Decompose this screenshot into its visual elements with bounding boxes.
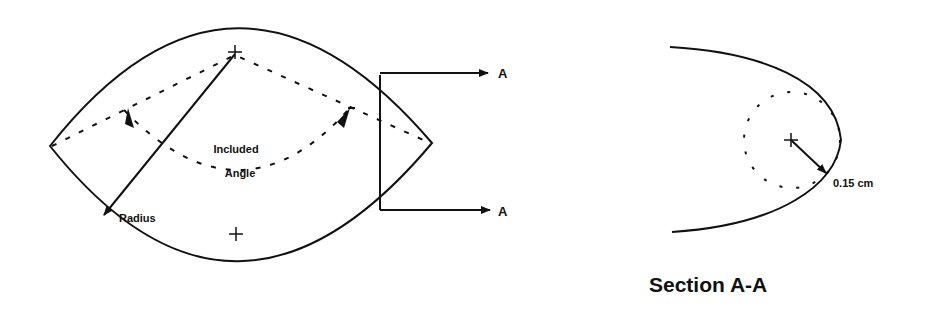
- bottom-center-cross-icon: [229, 227, 243, 241]
- lens-shape-diagram: A A Radius Included Angle 0.15 cm Sectio…: [0, 0, 933, 312]
- section-view: 0.15 cm Section A-A: [649, 47, 874, 296]
- angle-arrow-right-icon: [337, 108, 350, 128]
- radius-label: Radius: [119, 212, 156, 224]
- edge-radius-arrow: [791, 140, 826, 173]
- edge-radius-dimension-label: 0.15 cm: [833, 177, 874, 189]
- main-view: A A Radius Included Angle: [50, 28, 508, 261]
- included-angle-label-line1: Included: [213, 143, 258, 155]
- radius-arrow: [104, 54, 235, 215]
- section-edge-profile: [670, 47, 841, 232]
- included-angle-dashed-lines: [52, 55, 430, 146]
- section-marker-top-label: A: [498, 66, 508, 81]
- section-title: Section A-A: [649, 273, 767, 296]
- included-angle-arc: [124, 110, 348, 170]
- included-angle-label-line2: Angle: [225, 167, 256, 179]
- section-marker-bottom-label: A: [498, 204, 508, 219]
